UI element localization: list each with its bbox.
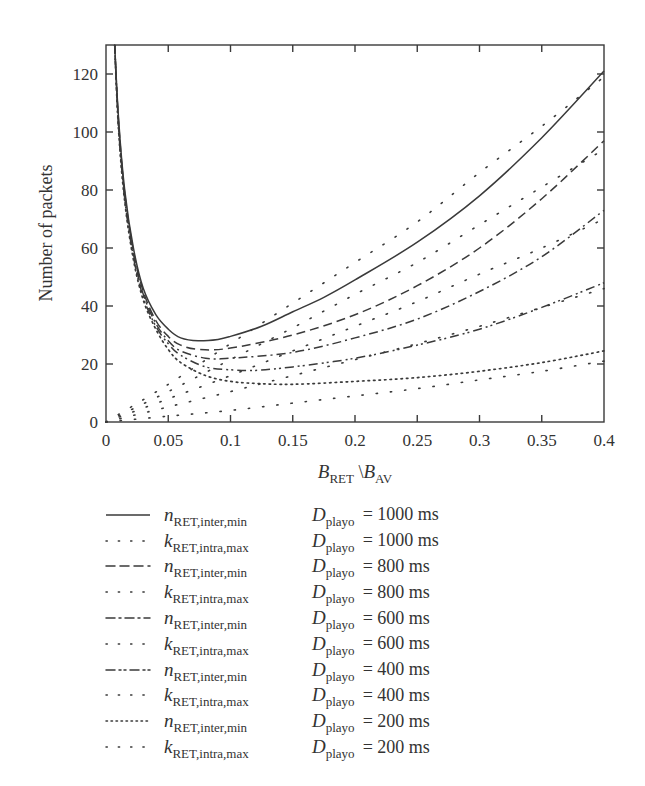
series-line-3 [115,45,604,350]
legend-variable: kRET,intra,max [164,633,312,655]
legend-swatch-sparse-dot [104,741,152,753]
x-tick-label: 0.3 [469,431,490,450]
y-tick-label: 120 [73,65,99,84]
legend-swatch-dotted [104,715,152,727]
legend-playout-delay: Dplayo [312,684,355,706]
legend-swatch-sparse-dot [104,689,152,701]
series-layer [106,45,604,422]
legend-item: nRET,inter,minDplayo= 1000 ms [104,502,439,528]
legend-swatch-sparse-dot [104,535,152,547]
y-axis-title: Number of packets [36,165,56,302]
legend-item: nRET,inter,minDplayo= 600 ms [104,605,439,631]
legend-swatch-dash-dot-dot [104,664,152,676]
legend-variable: nRET,inter,min [164,504,312,526]
legend-item: kRET,intra,maxDplayo= 600 ms [104,631,439,657]
legend-item: kRET,intra,maxDplayo= 1000 ms [104,528,439,554]
legend-value: = 400 ms [363,685,430,706]
series-line-9 [115,45,604,384]
legend-playout-delay: Dplayo [312,710,355,732]
legend-item: nRET,inter,minDplayo= 800 ms [104,554,439,580]
legend-swatch-solid [104,509,152,521]
legend-playout-delay: Dplayo [312,607,355,629]
x-tick-label: 0.35 [527,431,557,450]
y-tick-label: 40 [81,297,98,316]
legend-playout-delay: Dplayo [312,555,355,577]
legend-value: = 600 ms [363,608,430,629]
legend-variable: nRET,inter,min [164,607,312,629]
legend-playout-delay: Dplayo [312,530,355,552]
legend-swatch-dashed [104,560,152,572]
legend-playout-delay: Dplayo [312,659,355,681]
y-tick-label: 60 [81,239,98,258]
x-tick-label: 0.05 [153,431,183,450]
legend-value: = 800 ms [363,556,430,577]
legend-value: = 600 ms [363,633,430,654]
series-line-8 [106,289,604,422]
y-tick-label: 20 [81,355,98,374]
legend-item: kRET,intra,maxDplayo= 400 ms [104,683,439,709]
legend-variable: nRET,inter,min [164,555,312,577]
legend-item: nRET,inter,minDplayo= 400 ms [104,657,439,683]
legend-variable: kRET,intra,max [164,684,312,706]
legend: nRET,inter,minDplayo= 1000 mskRET,intra,… [104,502,439,760]
x-tick-label: 0 [102,431,111,450]
series-line-4 [106,149,604,422]
legend-playout-delay: Dplayo [312,504,355,526]
x-axis-title: BRET \BAV [318,461,393,486]
legend-swatch-sparse-dot [104,586,152,598]
legend-value: = 200 ms [363,711,430,732]
x-title-s1: RET [329,471,354,486]
legend-playout-delay: Dplayo [312,736,355,758]
legend-variable: nRET,inter,min [164,710,312,732]
x-title-b2: B [363,461,375,482]
x-tick-label: 0.15 [278,431,308,450]
x-axis: 00.050.10.150.20.250.30.350.4 [102,45,615,450]
y-tick-label: 0 [90,413,99,432]
x-title-s2: AV [375,471,393,486]
x-title-b1: B [318,461,330,482]
legend-item: kRET,intra,maxDplayo= 200 ms [104,734,439,760]
series-line-5 [115,45,604,359]
x-tick-label: 0.1 [220,431,241,450]
legend-variable: kRET,intra,max [164,581,312,603]
legend-value: = 1000 ms [363,530,439,551]
legend-swatch-sparse-dot [104,638,152,650]
legend-playout-delay: Dplayo [312,581,355,603]
legend-item: nRET,inter,minDplayo= 200 ms [104,708,439,734]
x-title-sep: \ [354,462,364,482]
series-line-1 [115,45,604,341]
legend-variable: nRET,inter,min [164,659,312,681]
legend-item: kRET,intra,maxDplayo= 800 ms [104,579,439,605]
legend-value: = 1000 ms [363,504,439,525]
x-tick-label: 0.2 [344,431,365,450]
y-tick-label: 80 [81,181,98,200]
legend-value: = 200 ms [363,737,430,758]
legend-playout-delay: Dplayo [312,633,355,655]
plot-frame [106,45,604,422]
legend-value: = 800 ms [363,582,430,603]
line-chart: 00.050.10.150.20.250.30.350.4 0204060801… [0,0,645,500]
y-axis: 020406080100120 [73,65,605,432]
x-tick-label: 0.25 [402,431,432,450]
x-tick-label: 0.4 [593,431,615,450]
legend-value: = 400 ms [363,659,430,680]
series-line-2 [106,77,604,422]
legend-swatch-dash-dot [104,612,152,624]
legend-variable: kRET,intra,max [164,736,312,758]
legend-variable: kRET,intra,max [164,530,312,552]
series-line-6 [106,219,604,422]
y-tick-label: 100 [73,123,99,142]
series-line-10 [106,361,604,422]
